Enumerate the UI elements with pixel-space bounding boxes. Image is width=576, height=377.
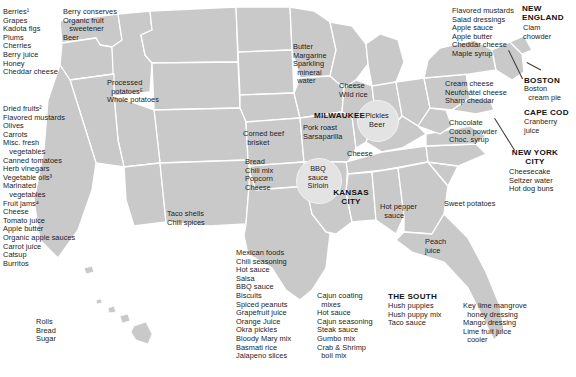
tennessee-products: Hot pepper sauce [380, 203, 417, 220]
boston-products: Boston cream pie [524, 85, 561, 102]
minnesota-products: Butter Margarine Sparkling mineral water [293, 43, 327, 86]
texas-products: Mexican foods Chili seasoning Hot sauce … [236, 249, 291, 361]
the-south-products: Hush puppies Hush puppy mix Taco sauce [388, 302, 442, 328]
pacific-northwest-products: Berry conserves Organic fruit sweetener … [63, 8, 117, 42]
new-england-products: Clam chowder [523, 24, 551, 41]
milwaukee-label: MILWAUKEE [314, 111, 365, 120]
boston-label: BOSTON [524, 76, 560, 85]
louisiana-products: Cajun coating mixes Hot sauce Cajun seas… [317, 292, 373, 361]
cape-cod-label: CAPE COD [524, 108, 569, 117]
florida-keys-products: Key lime mangrove honey dressing Mango d… [463, 302, 527, 345]
us-food-products-map: Berry conserves Organic fruit sweetener … [0, 0, 576, 377]
southwest-products: Taco shells Chili spices [167, 210, 205, 227]
hawaii-products: Rolls Bread Sugar [36, 318, 56, 344]
new-england-label: NEW ENGLAND [522, 4, 564, 23]
bbq-sauce-products: BBQ sauce Sirloin [299, 165, 337, 191]
new-york-city-products: Cheesecake Seltzer water Hot dog buns [509, 168, 553, 194]
cape-cod-products: Cranberry juice [524, 118, 557, 135]
illinois-products: Cheese [347, 150, 373, 159]
iowa-products: Corned beef brisket [243, 130, 284, 147]
vermont-newyork-products: Flavored mustards Salad dressings Apple … [452, 7, 514, 59]
kansas-products: Bread Chili mix Popcorn Cheese [245, 158, 273, 192]
kansas-city-label: KANSAS CITY [327, 188, 375, 207]
north-carolina-products: Sweet potatoes [444, 200, 496, 209]
new-york-city-label: NEW YORK CITY [506, 148, 564, 167]
missouri-products: Pork roast Sarsaparilla [303, 124, 343, 141]
northern-california-products: Berries¹ Grapes Kadota figs Plums Cherri… [3, 8, 58, 77]
pickles-beer-products: Pickles Beer [362, 112, 392, 129]
california-products: Dried fruits² Flavored mustards Olives C… [3, 105, 75, 268]
new-york-state-products: Cream cheese Neufchâtel cheese Sharp che… [445, 80, 507, 106]
georgia-products: Peach juice [425, 238, 446, 255]
idaho-products: Processed potatoes⁵ Whole potatoes [107, 79, 159, 105]
pennsylvania-products: Chocolate Cocoa powder Choc. syrup [449, 119, 497, 145]
wisconsin-products: Cheese Wild rice [339, 82, 368, 99]
the-south-label: THE SOUTH [388, 292, 437, 301]
